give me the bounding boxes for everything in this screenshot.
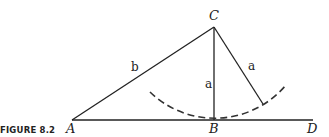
point-label-B: B: [208, 121, 219, 136]
line-AC: [72, 27, 214, 120]
point-label-C: C: [209, 8, 219, 23]
point-label-A: A: [65, 121, 75, 136]
side-label-AC: b: [131, 60, 139, 74]
dashed-arc: [150, 85, 286, 118]
side-label-CE: a: [248, 59, 255, 73]
side-label-CB: a: [205, 77, 212, 91]
line-CE: [214, 27, 263, 104]
point-label-D: D: [306, 121, 318, 136]
figure-caption: FIGURE 8.2: [0, 125, 55, 135]
geometry-figure: C A B D b a a FIGURE 8.2: [0, 0, 329, 137]
